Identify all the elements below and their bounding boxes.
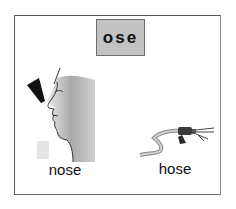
word-family-text: ose: [103, 28, 138, 48]
label-nose: nose: [35, 161, 95, 178]
garden-hose-icon: [138, 123, 216, 159]
nose-face-icon: [27, 68, 97, 162]
word-family-box: ose: [96, 19, 145, 56]
label-hose: hose: [145, 160, 205, 177]
